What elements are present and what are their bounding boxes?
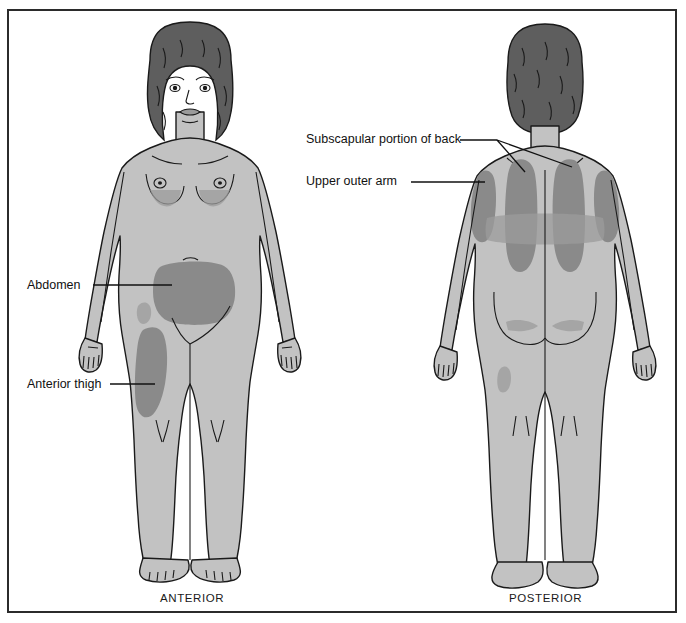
label-upper-outer-arm: Upper outer arm <box>306 174 397 188</box>
mouth <box>180 109 200 115</box>
caption-anterior: ANTERIOR <box>160 592 224 604</box>
label-abdomen: Abdomen <box>27 278 81 292</box>
foot-left <box>140 558 190 582</box>
heel-right <box>547 562 598 588</box>
posterior-figure <box>434 24 656 588</box>
heel-left <box>492 562 543 588</box>
pupil-left <box>173 86 177 90</box>
foot-right <box>191 558 241 582</box>
diagram-page: .sk { fill:#c2c2c2; stroke:#1a1a1a; stro… <box>0 0 686 623</box>
nipple-right <box>218 181 222 185</box>
hair-strand-7 <box>163 112 165 130</box>
pupil-right <box>203 86 207 90</box>
label-anterior-thigh: Anterior thigh <box>27 377 101 391</box>
site-abdomen <box>153 262 235 325</box>
label-subscapular-portion-of-back: Subscapular portion of back <box>306 132 461 146</box>
caption-posterior: POSTERIOR <box>509 592 582 604</box>
nipple-left <box>158 181 162 185</box>
anterior-figure <box>79 22 301 582</box>
nose <box>186 90 194 104</box>
hair-posterior <box>507 24 583 134</box>
body-figures-illustration: .sk { fill:#c2c2c2; stroke:#1a1a1a; stro… <box>0 0 686 623</box>
